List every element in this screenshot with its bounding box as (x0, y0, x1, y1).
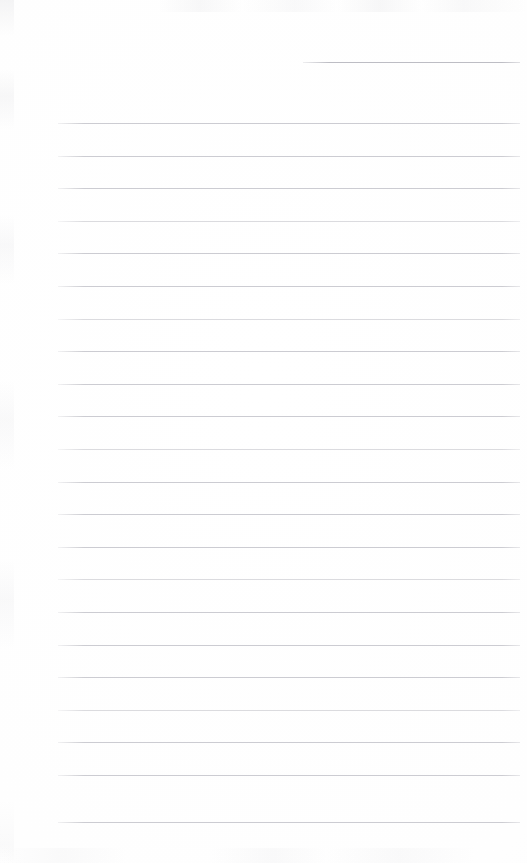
ruled-line (58, 677, 520, 678)
ruled-line (58, 645, 520, 646)
ruled-line (58, 188, 520, 189)
ruled-line (58, 775, 520, 776)
ruled-line (58, 710, 520, 711)
ruled-line (58, 482, 520, 483)
ruled-line (58, 416, 520, 417)
ruled-line (58, 579, 520, 580)
ruled-line (58, 319, 520, 320)
ruled-line (58, 547, 520, 548)
ruled-line (303, 62, 520, 63)
ruled-line (58, 742, 520, 743)
scan-noise-left-edge (0, 0, 14, 863)
ruled-line (58, 822, 520, 823)
ruled-line (58, 612, 520, 613)
paper-surface (0, 0, 527, 863)
ruled-line (58, 351, 520, 352)
ruled-line (58, 384, 520, 385)
scan-noise-top-edge (0, 0, 527, 12)
ruled-line (58, 123, 520, 124)
ruled-line (58, 253, 520, 254)
ruled-line (58, 156, 520, 157)
notebook-page (0, 0, 527, 863)
ruled-line (58, 221, 520, 222)
scan-noise-bottom-edge (0, 848, 527, 863)
ruled-line (58, 514, 520, 515)
ruled-line (58, 449, 520, 450)
ruled-line (58, 286, 520, 287)
